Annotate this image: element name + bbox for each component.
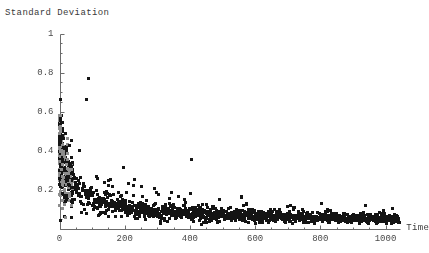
y-tick-label: 0.6 — [0, 107, 54, 117]
y-tick-label: 0.4 — [0, 146, 54, 156]
y-tick-label: 0.8 — [0, 68, 54, 78]
x-tick-label: 0 — [57, 234, 62, 244]
x-tick-label: 600 — [247, 234, 263, 244]
x-tick-label: 800 — [312, 234, 328, 244]
x-tick-label: 1000 — [375, 234, 397, 244]
y-tick-label: 1 — [0, 29, 54, 39]
x-tick-label: 400 — [182, 234, 198, 244]
x-axis-title: Time — [406, 223, 429, 233]
x-tick-label: 200 — [117, 234, 133, 244]
y-tick-label: 0.2 — [0, 185, 54, 195]
